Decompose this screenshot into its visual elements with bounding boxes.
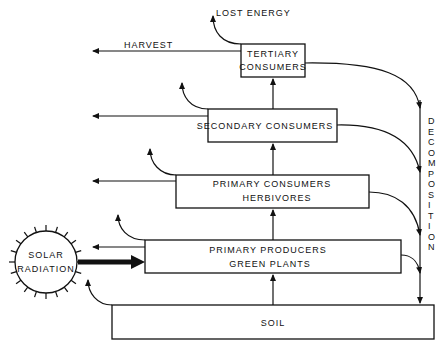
primary-consumers-label-2: HERBIVORES <box>242 193 311 203</box>
decomposition-letter: T <box>428 211 435 221</box>
decomposition-letter: D <box>428 116 436 126</box>
decomposition-letter: P <box>428 169 435 179</box>
soil-label: SOIL <box>261 318 286 328</box>
decomposition-letter: O <box>428 148 436 158</box>
sun-icon <box>9 225 83 299</box>
decomposition-letter: E <box>428 127 435 137</box>
ecosystem-diagram: SOLAR RADIATION TERTIARY CONSUMERS SECON… <box>0 0 443 348</box>
harvest-arrows <box>93 51 241 247</box>
primary-producers-label-2: GREEN PLANTS <box>229 259 311 269</box>
decomposition-letter: I <box>428 221 432 231</box>
secondary-label: SECONDARY CONSUMERS <box>197 121 334 131</box>
decomposition-letter: N <box>428 242 436 252</box>
tertiary-label-1: TERTIARY <box>247 49 299 59</box>
solar-arrowhead-icon <box>131 255 145 269</box>
decomposition-letter: O <box>428 232 436 242</box>
decomposition-letter: S <box>428 190 435 200</box>
decomposition-label: DECOMPOSITION <box>428 116 437 252</box>
sun-label-line2: RADIATION <box>17 264 74 274</box>
primary-consumers-label-1: PRIMARY CONSUMERS <box>213 179 332 189</box>
decomposition-letter: M <box>428 158 437 168</box>
sun-label-line1: SOLAR <box>28 250 64 260</box>
tertiary-label-2: CONSUMERS <box>239 62 307 72</box>
decomposition-letter: C <box>428 137 436 147</box>
decomposition-letter: O <box>428 179 436 189</box>
harvest-label: HARVEST <box>124 40 173 50</box>
primary-producers-label-1: PRIMARY PRODUCERS <box>209 245 327 255</box>
lost-energy-label: LOST ENERGY <box>216 8 291 18</box>
decomposition-letter: I <box>428 200 432 210</box>
